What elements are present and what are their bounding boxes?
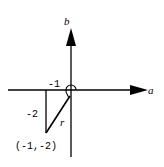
horizontal-axis-label: a xyxy=(148,84,154,96)
vertical-leg-label: -2 xyxy=(26,109,38,120)
vertical-axis-label: b xyxy=(64,15,70,27)
complex-plane-diagram: b a -1 -2 r (-1,-2) xyxy=(0,0,164,167)
horizontal-leg-label: -1 xyxy=(48,79,60,90)
horizontal-axis-arrowhead xyxy=(130,85,148,95)
vertical-axis-arrowhead xyxy=(66,28,76,46)
point-label: (-1,-2) xyxy=(15,141,57,152)
radius-label: r xyxy=(60,116,65,128)
angle-arc-tail xyxy=(67,94,69,97)
radius-line xyxy=(46,96,70,133)
